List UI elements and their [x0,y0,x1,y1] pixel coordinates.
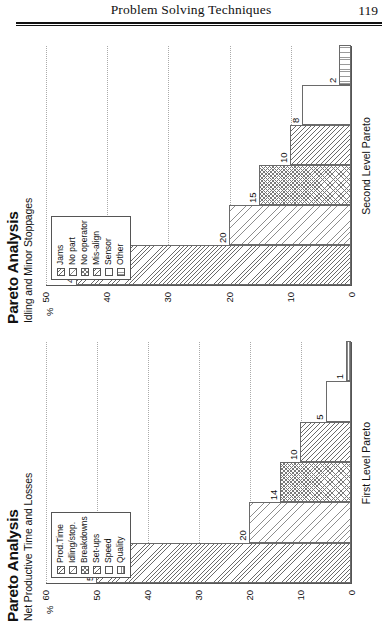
figure-second-level-pareto: Pareto AnalysisIdling and Minor Stoppage… [0,36,382,326]
legend-item-label: Sensor [104,238,113,265]
legend-item: Sensor [103,220,114,276]
legend-item-label: Jams [56,245,65,265]
bar [326,381,352,421]
legend-item: Speed [103,516,114,574]
legend-swatch-icon [117,566,125,574]
legend-swatch-icon [105,566,113,574]
figure-content: Pareto AnalysisIdling and Minor Stoppage… [0,36,382,326]
legend-item: Prod.Time [55,516,66,574]
page-header: Problem Solving Techniques 119 [0,0,382,30]
legend-item-label: Prod.Time [56,524,65,563]
figure-subtitle: Idling and Minor Stoppages [22,198,34,323]
legend-swatch-icon [117,268,125,276]
figure-subtitle: Net Productive Time and Losses [22,473,34,621]
bar-value-label: 8 [290,118,301,123]
figure-content: Pareto AnalysisNet Productive Time and L… [0,332,382,624]
legend-item: Idling/stop. [67,516,78,574]
figure-first-level-pareto: Pareto AnalysisNet Productive Time and L… [0,332,382,624]
legend-item: Other [115,220,126,276]
legend: JamsNo partNo operatorMis-alignSensorOth… [51,216,131,280]
legend-item: No part [67,220,78,276]
legend-item: Breakdowns [79,516,90,574]
legend-swatch-icon [93,268,101,276]
y-tick-label: 50 [40,292,51,303]
legend-item-label: Idling/stop. [68,522,77,563]
legend-item: Set-ups [91,516,102,574]
y-tick-label: 40 [142,590,153,601]
y-axis-unit: % [44,606,55,614]
legend-item-label: Set-ups [92,534,101,563]
bar [249,502,351,542]
y-tick-label: 30 [162,292,173,303]
bar [339,45,351,85]
y-tick-label: 30 [193,590,204,601]
legend-swatch-icon [81,566,89,574]
x-axis-label: Second Level Pareto [360,46,372,286]
legend-swatch-icon [105,268,113,276]
legend-swatch-icon [81,268,89,276]
bar-value-label: 1 [334,374,345,379]
running-head: Problem Solving Techniques [0,2,382,18]
bar-value-label: 20 [237,530,248,541]
legend-swatch-icon [93,566,101,574]
legend-item: Quality [115,516,126,574]
legend-item: Mis-align [91,220,102,276]
y-tick-label: 10 [285,292,296,303]
bar-value-label: 5 [314,414,325,419]
y-tick-label: 50 [91,590,102,601]
figure-title: Pareto Analysis [4,211,22,324]
book-page: Problem Solving Techniques 119 Pareto An… [0,0,382,626]
header-rule [16,22,382,24]
legend-swatch-icon [69,566,77,574]
legend-item-label: Mis-align [92,231,101,265]
bar-value-label: 10 [278,152,289,163]
legend-item-label: Other [116,244,125,265]
bar [96,543,351,583]
header-rule-thin [16,25,382,26]
legend-swatch-icon [57,268,65,276]
legend-item-label: Breakdowns [80,516,89,563]
bar-value-label: 15 [247,192,258,203]
legend-item: Jams [55,220,66,276]
figure-title: Pareto Analysis [4,509,22,622]
legend-swatch-icon [57,566,65,574]
legend: Prod.TimeIdling/stop.BreakdownsSet-upsSp… [51,512,131,578]
gridline [46,342,47,583]
legend-item: No operator [79,220,90,276]
bar [229,205,351,245]
y-tick-label: 0 [346,590,357,595]
legend-item-label: Quality [116,537,125,563]
y-tick-label: 10 [295,590,306,601]
legend-swatch-icon [69,268,77,276]
y-tick-label: 0 [346,292,357,297]
page-number: 119 [358,3,378,19]
bar-value-label: 2 [327,78,338,83]
bar-value-label: 10 [288,449,299,460]
y-tick-label: 60 [40,590,51,601]
bar-value-label: 14 [268,490,279,501]
y-tick-label: 40 [101,292,112,303]
bar [302,85,351,125]
y-axis-unit: % [44,308,55,316]
bar [346,341,351,381]
legend-item-label: Speed [104,538,113,563]
bar [280,462,351,502]
legend-item-label: No part [68,237,77,265]
y-tick-label: 20 [244,590,255,601]
y-tick-label: 20 [224,292,235,303]
bar [290,125,351,165]
bar-value-label: 20 [217,232,228,243]
bar [300,422,351,462]
gridline [46,46,47,285]
bar [259,165,351,205]
x-axis-label: First Level Pareto [360,342,372,584]
legend-item-label: No operator [80,220,89,265]
